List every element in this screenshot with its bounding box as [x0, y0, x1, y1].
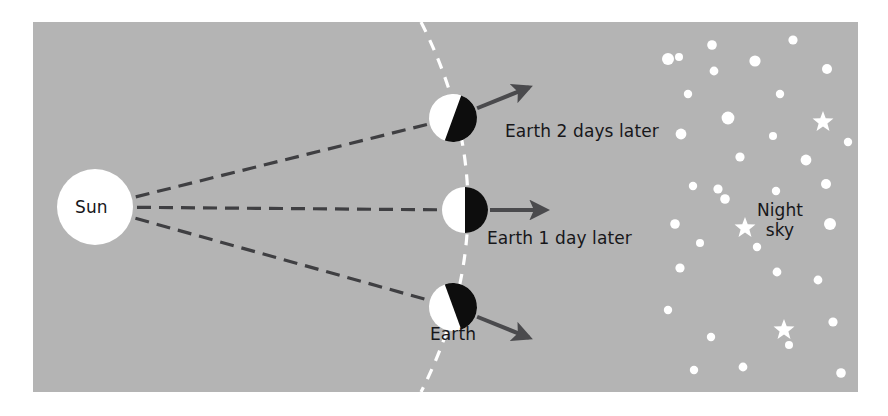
star-dot	[822, 64, 832, 74]
star-dot	[821, 179, 831, 189]
star-dot	[773, 268, 782, 277]
night-sky-label: Night sky	[757, 200, 803, 240]
star-dot	[753, 243, 761, 251]
star-dot	[675, 53, 683, 61]
star-dot	[769, 132, 777, 140]
star-dot	[713, 184, 722, 193]
star-dot	[788, 35, 797, 44]
earth-globe	[442, 187, 488, 233]
star-dot	[707, 40, 717, 50]
star-dot	[720, 194, 730, 204]
sun-ray-2	[137, 207, 441, 209]
diagram-stage: SunEarth 2 days laterEarth 1 day laterEa…	[0, 0, 888, 416]
star-dot	[684, 90, 692, 98]
star-dot	[776, 90, 784, 98]
star-dot	[785, 341, 793, 349]
star-dot	[836, 368, 846, 378]
star-dot	[844, 138, 852, 146]
star-dot	[662, 53, 674, 65]
star-dot	[739, 363, 748, 372]
star-dot	[689, 182, 697, 190]
star-dot	[824, 218, 836, 230]
sun-ray-1	[136, 124, 429, 197]
star-glyph	[774, 319, 795, 339]
star-dot	[722, 112, 735, 125]
star-dot	[670, 219, 680, 229]
star-dot	[664, 306, 672, 314]
sun-ray-3	[135, 218, 428, 300]
earth-globe	[422, 87, 484, 149]
star-glyph	[813, 111, 834, 131]
star-dot	[675, 263, 684, 272]
star-dot	[814, 276, 823, 285]
earth-2-days-later-label: Earth 2 days later	[505, 121, 659, 141]
star-dot	[707, 333, 715, 341]
earth-label: Earth	[430, 324, 476, 344]
star-dot	[772, 187, 780, 195]
star-dot	[696, 239, 704, 247]
star-glyph	[735, 217, 756, 237]
star-dot	[828, 317, 837, 326]
star-dot	[801, 155, 812, 166]
earth-night-side	[465, 187, 488, 233]
earth-motion-arrow	[477, 317, 529, 338]
star-dot	[676, 129, 687, 140]
sun-label: Sun	[75, 197, 108, 217]
star-dot	[710, 67, 719, 76]
earth-1-day-later-label: Earth 1 day later	[487, 228, 632, 248]
star-dot	[735, 152, 744, 161]
star-dot	[749, 55, 760, 66]
star-dot	[690, 366, 698, 374]
earth-motion-arrow	[477, 87, 529, 108]
